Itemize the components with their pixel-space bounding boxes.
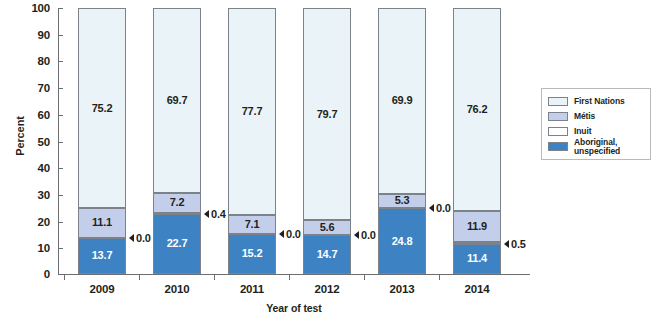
y-tick-label-100: 100 [8,2,50,14]
bar-value-label: 11.4 [467,253,487,264]
bar-group-2009[interactable]: 75.2 11.1 13.7 [78,8,126,274]
callout-value: 0.5 [511,238,526,250]
x-tick-2010 [139,275,140,280]
stacked-bar-chart: Percent 100 90 80 70 60 50 40 30 20 10 0… [0,0,658,323]
y-tick-label-90: 90 [8,29,50,41]
bar-value-label: 5.3 [395,195,410,206]
y-tick-60 [58,115,63,116]
callout-inuit-2010: 0.4 [204,208,226,220]
y-tick-label-60: 60 [8,109,50,121]
bar-segment-metis[interactable]: 7.1 [228,215,276,234]
callout-inuit-2009: 0.0 [129,232,151,244]
bar-value-label: 75.2 [92,103,113,114]
y-tick-label-40: 40 [8,162,50,174]
y-tick-label-30: 30 [8,189,50,201]
callout-value: 0.0 [436,202,451,214]
x-tick-label-2011: 2011 [214,283,290,295]
legend-item-metis[interactable]: Métis [548,109,645,124]
bar-value-label: 69.7 [167,95,188,106]
triangle-left-icon [204,210,209,218]
legend-label: Inuit [574,127,591,136]
x-tick-label-2012: 2012 [289,283,365,295]
legend-label: Aboriginal, unspecified [574,138,645,155]
bar-group-2010[interactable]: 69.7 7.2 22.7 [153,8,201,274]
bar-segment-first-nations[interactable]: 77.7 [228,8,276,215]
bar-value-label: 76.2 [467,104,488,115]
bar-segment-metis[interactable]: 11.1 [78,208,126,238]
bar-segment-metis[interactable]: 11.9 [453,211,501,243]
bar-group-2011[interactable]: 77.7 7.1 15.2 [228,8,276,274]
bar-segment-aboriginal-unspecified[interactable]: 24.8 [378,208,426,274]
y-tick-100 [58,8,63,9]
callout-value: 0.0 [136,232,151,244]
legend-label: First Nations [574,97,625,106]
bar-value-label: 22.7 [167,238,188,249]
x-tick-2012 [289,275,290,280]
bar-segment-first-nations[interactable]: 79.7 [303,8,351,220]
bar-segment-metis[interactable]: 5.3 [378,194,426,208]
bar-value-label: 24.8 [392,236,413,247]
x-tick-label-2014: 2014 [439,283,515,295]
callout-inuit-2012: 0.0 [354,229,376,241]
y-tick-10 [58,248,63,249]
triangle-left-icon [504,240,509,248]
bar-segment-aboriginal-unspecified[interactable]: 11.4 [453,244,501,274]
bar-value-label: 5.6 [320,222,335,233]
y-tick-90 [58,35,63,36]
callout-value: 0.0 [361,229,376,241]
y-tick-80 [58,61,63,62]
bar-segment-first-nations[interactable]: 76.2 [453,8,501,211]
bar-value-label: 14.7 [317,249,338,260]
bar-value-label: 69.9 [392,95,413,106]
callout-value: 0.4 [211,208,226,220]
y-tick-label-10: 10 [8,242,50,254]
x-tick-label-2009: 2009 [64,283,140,295]
bar-value-label: 11.1 [92,217,112,228]
bar-value-label: 7.1 [245,219,260,230]
y-tick-70 [58,88,63,89]
bar-group-2014[interactable]: 76.2 11.9 11.4 [453,8,501,274]
callout-inuit-2011: 0.0 [279,228,301,240]
legend-item-first-nations[interactable]: First Nations [548,94,645,109]
y-tick-30 [58,195,63,196]
bar-group-2013[interactable]: 69.9 5.3 24.8 [378,8,426,274]
bar-segment-metis[interactable]: 7.2 [153,193,201,212]
triangle-left-icon [354,231,359,239]
x-axis-title: Year of test [58,302,530,314]
bar-segment-aboriginal-unspecified[interactable]: 22.7 [153,214,201,274]
triangle-left-icon [429,204,434,212]
y-tick-label-70: 70 [8,82,50,94]
y-tick-label-50: 50 [8,136,50,148]
legend-item-aboriginal-unspecified[interactable]: Aboriginal, unspecified [548,139,645,154]
bar-segment-aboriginal-unspecified[interactable]: 15.2 [228,234,276,274]
x-tick-label-2013: 2013 [364,283,440,295]
legend-swatch-icon [548,97,568,106]
bar-value-label: 13.7 [92,250,113,261]
bar-segment-aboriginal-unspecified[interactable]: 14.7 [303,235,351,274]
bar-value-label: 77.7 [242,106,263,117]
bar-segment-first-nations[interactable]: 69.9 [378,8,426,194]
bar-value-label: 15.2 [242,248,263,259]
y-tick-label-0: 0 [8,268,50,280]
legend-swatch-icon [548,142,568,151]
legend-swatch-icon [548,127,568,136]
bar-segment-first-nations[interactable]: 75.2 [78,8,126,208]
y-tick-label-20: 20 [8,216,50,228]
y-tick-50 [58,142,63,143]
callout-inuit-2014: 0.5 [504,238,526,250]
x-tick-2014 [439,275,440,280]
bar-segment-metis[interactable]: 5.6 [303,220,351,235]
y-tick-40 [58,168,63,169]
triangle-left-icon [129,234,134,242]
bar-segment-first-nations[interactable]: 69.7 [153,8,201,193]
callout-value: 0.0 [286,228,301,240]
x-tick-2011 [214,275,215,280]
bar-value-label: 11.9 [467,221,487,232]
legend-label: Métis [574,112,595,121]
bar-value-label: 79.7 [317,109,338,120]
legend: First Nations Métis Inuit Aboriginal, un… [541,88,651,160]
x-tick-2013 [364,275,365,280]
x-tick-label-2010: 2010 [139,283,215,295]
bar-segment-aboriginal-unspecified[interactable]: 13.7 [78,238,126,275]
bar-group-2012[interactable]: 79.7 5.6 14.7 [303,8,351,274]
